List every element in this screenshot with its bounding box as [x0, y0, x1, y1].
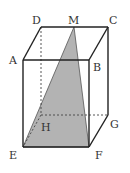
label-d: D	[32, 14, 41, 27]
label-b: B	[93, 61, 101, 74]
label-f: F	[95, 149, 103, 162]
edge-fg	[89, 115, 108, 147]
label-a: A	[8, 54, 18, 67]
label-m: M	[68, 14, 79, 27]
label-c: C	[109, 14, 117, 27]
label-g: G	[110, 118, 119, 131]
prism-diagram: D M C A B H G E F	[0, 0, 130, 173]
edge-bc	[89, 27, 108, 60]
edge-da	[23, 27, 41, 60]
label-e: E	[9, 149, 17, 162]
label-h: H	[41, 121, 51, 134]
